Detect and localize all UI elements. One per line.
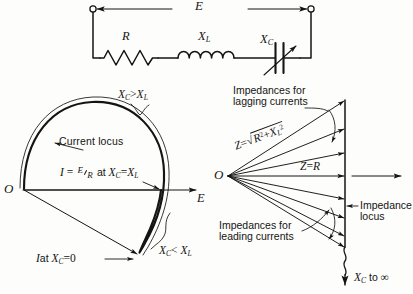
resonance-i: I [60,166,64,178]
resonance-at: at [97,166,106,178]
resonance-point-leader [143,182,159,189]
capacitor-label: XC [260,33,273,47]
z-equals-r-label: Z=R [300,160,320,172]
impedance-origin-label: O [214,168,223,182]
cond-bot-y: X [180,244,187,256]
xc-infinity-note: XC to ∞ [354,271,389,285]
resonance-note: I = ER at XC=XL [60,166,138,180]
cond-bot-y-sub: L [188,249,192,258]
capacitor-label-sub: C [268,38,274,47]
xczero-at: at [40,252,49,264]
capacitor-label-x: X [260,32,268,46]
current-chord-xc-zero [24,190,137,254]
cond-top-y: X [137,88,144,100]
condition-xc-greater-xl: XC>XL [118,88,148,102]
cond-bot-rel: < [171,244,178,256]
resonance-eq: = [67,166,74,178]
resonance-den: R [87,170,92,180]
current-locus-origin-label: O [4,182,13,196]
resistor-label: R [122,30,130,43]
resonance-y-sub: L [134,171,138,180]
infinity-icon: ∞ [381,271,389,283]
cond-bot-x: X [159,244,166,256]
leader-leading [302,210,329,231]
resonance-x: X [109,166,116,178]
zr-r: R [313,160,320,172]
xc-zero-note: Iat XC=0 [36,252,76,266]
impedance-locus-diagram [228,100,401,285]
cond-top-y-sub: L [144,93,148,102]
xczero-x: X [51,252,58,264]
figure-root: E R XL XC O E Current locus XC>XL XC< XL… [0,0,413,294]
xczero-value: 0 [70,252,76,264]
inf-x: X [354,271,361,283]
source-label: E [195,0,203,13]
inductor-label-sub: L [206,35,211,44]
terminal-circle-right [308,6,314,12]
impedance-locus-note-line2: locus [360,211,385,222]
resistor-symbol [100,51,158,66]
variable-capacitor-arrow [264,46,296,75]
impedance-locus-squiggle [344,247,346,275]
leader-lagging [305,108,328,111]
inf-x-sub: C [361,276,366,285]
wire-left [93,12,100,58]
condition-xc-less-xl: XC< XL [159,244,192,258]
inductor-label-x: X [198,29,206,43]
arc-lagging [329,110,335,142]
ray-leading-1 [228,176,344,199]
current-locus-axis-label: E [197,192,205,205]
resonance-fraction: ER [76,166,94,178]
leading-note-line2: leading currents [219,231,294,242]
wire-right [300,12,311,58]
resonance-num: E [78,165,83,175]
lagging-note-line2: lagging currents [233,96,308,107]
inf-text: to [369,271,378,283]
inductor-label: XL [198,30,210,44]
inductor-symbol [178,51,234,58]
cond-top-x: X [118,88,125,100]
current-locus-name: Current locus [59,136,123,147]
terminal-circle-left [90,6,96,12]
